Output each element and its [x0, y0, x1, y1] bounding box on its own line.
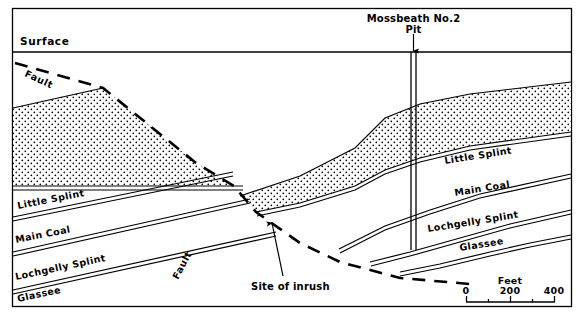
seam-label-lochgelly-splint-right: Lochgelly Splint	[427, 209, 520, 234]
seam-line-main-coal-right	[339, 174, 571, 253]
surface-label: Surface	[20, 35, 69, 47]
drift-body-right	[240, 82, 571, 212]
scale-tick-label-0: 0	[463, 285, 470, 296]
fault-label-upper: Fault	[23, 68, 55, 91]
seam-label-main-coal-right: Main Coal	[454, 178, 511, 198]
geological-cross-section-figure: Surface Little Splint Main Coal Lochge	[0, 0, 580, 318]
pit-label-name: Mossbeath No.2	[367, 13, 461, 24]
scale-tick-label-400: 400	[544, 285, 565, 296]
seam-line-little-splint-left	[13, 186, 243, 190]
scale-tick-label-200: 200	[500, 285, 521, 296]
scale-bar: 0 200 400 Feet	[463, 275, 565, 302]
drift-body-left	[13, 88, 234, 186]
site-of-inrush-label: Site of inrush	[251, 281, 330, 292]
scale-unit-label: Feet	[498, 275, 523, 286]
seam-label-main-coal-left: Main Coal	[14, 223, 71, 244]
seam-label-lochgelly-splint-left: Lochgelly Splint	[14, 252, 106, 282]
inrush-pointer-arrow	[272, 223, 283, 276]
seam-label-little-splint-left: Little Splint	[16, 187, 85, 211]
pit-label-word: Pit	[405, 24, 421, 35]
seam-label-glassee-left: Glassee	[16, 284, 62, 304]
